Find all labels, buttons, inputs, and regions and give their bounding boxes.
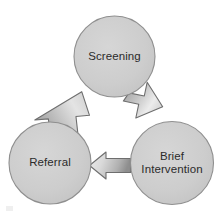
brief-intervention-label-line1: Brief bbox=[160, 150, 185, 162]
scan-artifact bbox=[6, 206, 13, 211]
diagram-canvas: Screening Brief Intervention Referral bbox=[0, 0, 221, 216]
node-brief-intervention[interactable]: Brief Intervention bbox=[131, 122, 214, 205]
cycle-diagram: Screening Brief Intervention Referral bbox=[0, 0, 221, 216]
screening-label: Screening bbox=[88, 50, 141, 62]
brief-intervention-label-line2: Intervention bbox=[141, 163, 202, 175]
arrow-brief-intervention-to-referral bbox=[90, 152, 131, 179]
referral-label: Referral bbox=[29, 156, 71, 168]
node-referral[interactable]: Referral bbox=[9, 122, 91, 204]
node-screening[interactable]: Screening bbox=[74, 16, 155, 97]
